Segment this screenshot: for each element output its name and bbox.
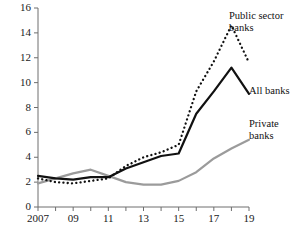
x-axis-ticks — [38, 207, 249, 211]
y-tick-label: 14 — [2, 27, 31, 38]
annotation-all-banks-line1: All banks — [249, 85, 290, 97]
y-tick-label: 2 — [2, 176, 31, 187]
line-chart: 0246810121416 2007091113151719 Public se… — [0, 0, 298, 231]
chart-canvas — [0, 0, 298, 231]
series-line-public-sector-banks — [38, 25, 249, 183]
x-tick-label: 17 — [194, 213, 234, 224]
y-axis-ticks — [34, 8, 38, 207]
x-tick-label: 09 — [53, 213, 93, 224]
y-tick-label: 0 — [2, 201, 31, 212]
x-tick-label: 19 — [229, 213, 269, 224]
x-tick-label: 13 — [124, 213, 164, 224]
annotation-public-sector-banks-line2: banks — [229, 22, 284, 34]
y-tick-label: 6 — [2, 126, 31, 137]
annotation-all-banks: All banks — [249, 85, 290, 97]
y-tick-label: 8 — [2, 102, 31, 113]
annotation-public-sector-banks: Public sector banks — [229, 10, 284, 34]
x-tick-label: 2007 — [18, 213, 58, 224]
series-line-all-banks — [38, 68, 249, 180]
y-tick-label: 16 — [2, 2, 31, 13]
annotation-public-sector-banks-line1: Public sector — [229, 10, 284, 22]
axis-lines — [38, 8, 249, 207]
annotation-private-banks: Private banks — [249, 118, 279, 142]
y-tick-label: 12 — [2, 52, 31, 63]
x-tick-label: 15 — [159, 213, 199, 224]
y-tick-label: 4 — [2, 151, 31, 162]
y-tick-label: 10 — [2, 77, 31, 88]
x-tick-label: 11 — [88, 213, 128, 224]
annotation-private-banks-line2: banks — [249, 130, 279, 142]
annotation-private-banks-line1: Private — [249, 118, 279, 130]
